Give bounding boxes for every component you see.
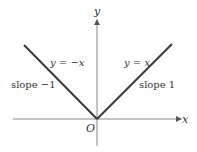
slope-label-neg-1: slope −1 — [11, 79, 56, 90]
equation-neg-x: y = −x — [49, 57, 85, 68]
equation-x: y = x — [123, 57, 150, 68]
slope-label-1: slope 1 — [139, 79, 175, 90]
x-axis-label: x — [182, 113, 189, 126]
abs-value-diagram: y x O y = −x y = x slope −1 slope 1 — [0, 0, 197, 152]
y-axis-label: y — [93, 5, 101, 18]
origin-label: O — [86, 122, 95, 135]
